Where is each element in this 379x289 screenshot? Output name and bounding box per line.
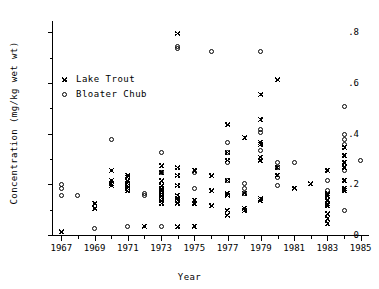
data-point (209, 49, 214, 54)
data-point (209, 173, 214, 178)
y-tick-label: .8 (337, 28, 359, 37)
x-minor-tick (244, 236, 245, 239)
x-minor-tick (344, 236, 345, 239)
data-point (292, 160, 297, 165)
x-tick (294, 236, 295, 241)
data-point (109, 168, 114, 173)
data-point (125, 173, 130, 178)
data-point (325, 168, 330, 173)
data-point (92, 201, 97, 206)
data-point (159, 163, 164, 168)
data-point (342, 208, 347, 213)
data-point (342, 153, 347, 158)
data-point (192, 186, 197, 191)
data-point (342, 142, 347, 147)
data-point (325, 198, 330, 203)
x-axis-title: Year (0, 272, 379, 282)
data-point (325, 178, 330, 183)
y-tick-label: 0 (337, 231, 359, 240)
data-point (225, 140, 230, 145)
data-point (342, 168, 347, 173)
data-point (275, 175, 280, 180)
data-point (258, 148, 263, 153)
data-point (275, 77, 280, 82)
y-tick-label: .4 (337, 130, 359, 139)
data-point (209, 203, 214, 208)
data-point (109, 178, 114, 183)
data-point (342, 178, 347, 183)
data-point (92, 206, 97, 211)
data-point (258, 196, 263, 201)
y-tick (48, 184, 53, 185)
data-point (225, 208, 230, 213)
y-tick (48, 235, 53, 236)
data-point (242, 181, 247, 186)
x-tick (194, 236, 195, 241)
x-tick (261, 236, 262, 241)
data-point (308, 181, 313, 186)
data-point (125, 224, 130, 229)
data-point (109, 137, 114, 142)
data-point (142, 224, 147, 229)
data-point (275, 165, 280, 170)
data-point (242, 206, 247, 211)
data-point (325, 221, 330, 226)
data-point (258, 117, 263, 122)
y-tick (48, 32, 53, 33)
asterisk-icon (62, 77, 67, 82)
x-minor-tick (278, 236, 279, 239)
data-point (242, 135, 247, 140)
data-point (159, 178, 164, 183)
data-point (258, 49, 263, 54)
y-axis-line (52, 21, 53, 236)
data-point (175, 224, 180, 229)
legend-label: Lake Trout (76, 72, 135, 87)
data-point (192, 224, 197, 229)
data-point (258, 155, 263, 160)
data-point (175, 31, 180, 36)
data-point (292, 186, 297, 191)
data-point (59, 229, 64, 234)
x-tick (161, 236, 162, 241)
data-point (192, 170, 197, 175)
y-minor-tick (50, 108, 53, 109)
data-point (175, 193, 180, 198)
data-point (175, 46, 180, 51)
data-point (242, 191, 247, 196)
data-point (242, 186, 247, 191)
data-point (275, 160, 280, 165)
y-tick (48, 134, 53, 135)
x-minor-tick (111, 236, 112, 239)
data-point (275, 183, 280, 188)
data-point (192, 198, 197, 203)
plot-area: 0.2.4.6.8 196719691971197319751977197919… (53, 22, 369, 235)
circle-icon (62, 92, 67, 97)
data-point (225, 213, 230, 218)
y-axis-title: Concentration (mg/kg wet wt) (9, 23, 19, 223)
y-minor-tick (50, 58, 53, 59)
data-point (175, 165, 180, 170)
data-point (342, 137, 347, 142)
data-point (342, 160, 347, 165)
data-point (159, 224, 164, 229)
y-tick-label: .2 (337, 180, 359, 189)
x-tick (327, 236, 328, 241)
data-point (75, 193, 80, 198)
x-tick (228, 236, 229, 241)
data-point (342, 186, 347, 191)
data-point (342, 104, 347, 109)
x-tick (61, 236, 62, 241)
data-point (225, 122, 230, 127)
data-point (142, 191, 147, 196)
x-tick (361, 236, 362, 241)
data-point (159, 150, 164, 155)
data-point (325, 211, 330, 216)
data-point (258, 140, 263, 145)
x-minor-tick (311, 236, 312, 239)
data-point (59, 193, 64, 198)
x-minor-tick (78, 236, 79, 239)
data-point (225, 191, 230, 196)
data-point (342, 132, 347, 137)
data-point (159, 183, 164, 188)
data-point (225, 150, 230, 155)
